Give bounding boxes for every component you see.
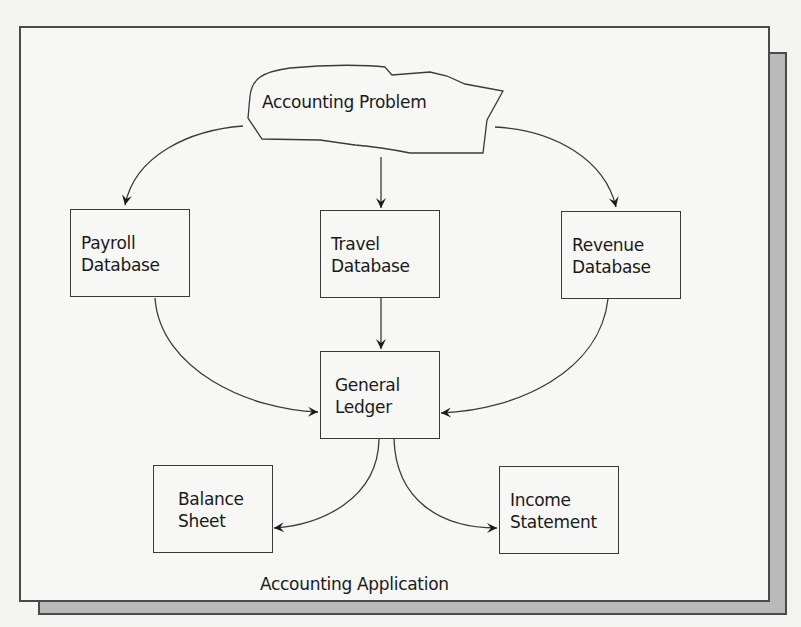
travel-database-node: Travel Database [320,210,440,298]
income-statement-label: Income Statement [510,489,597,533]
diagram-frame [19,26,770,602]
payroll-database-node: Payroll Database [70,209,190,297]
diagram-caption: Accounting Application [260,574,449,594]
revenue-database-node: Revenue Database [561,211,681,299]
balance-sheet-node: Balance Sheet [153,465,273,553]
accounting-problem-label: Accounting Problem [262,92,426,112]
balance-sheet-label: Balance Sheet [178,488,244,532]
revenue-database-label: Revenue Database [572,234,651,278]
payroll-database-label: Payroll Database [81,232,160,276]
travel-database-label: Travel Database [331,233,410,277]
income-statement-node: Income Statement [499,466,619,554]
general-ledger-label: General Ledger [335,374,400,418]
general-ledger-node: General Ledger [320,351,440,439]
